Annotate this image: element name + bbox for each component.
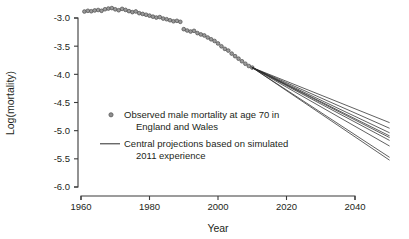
observed-data-point	[189, 30, 193, 34]
x-tick-label: 2020	[276, 201, 297, 212]
y-tick-label: -5.5	[54, 153, 70, 164]
observed-data-point	[237, 57, 241, 61]
y-axis: -3.0-3.5-4.0-4.5-5.0-5.5-6.0	[54, 12, 78, 192]
legend-label-line2: 2011 experience	[136, 150, 206, 161]
x-tick-label: 1960	[70, 201, 91, 212]
mortality-chart: -3.0-3.5-4.0-4.5-5.0-5.5-6.0 19601980200…	[0, 0, 409, 239]
observed-data-point	[230, 52, 234, 56]
x-tick-label: 2000	[207, 201, 228, 212]
projection-line	[252, 68, 389, 141]
observed-data-point	[233, 54, 237, 58]
projection-line	[252, 68, 389, 146]
observed-data-point	[226, 49, 230, 53]
observed-data-point	[161, 17, 165, 21]
y-tick-label: -5.0	[54, 125, 70, 136]
y-tick-label: -6.0	[54, 181, 70, 192]
legend-label-line1: Central projections based on simulated	[124, 138, 288, 149]
projection-line	[252, 68, 389, 133]
observed-data-point	[103, 7, 107, 11]
observed-data-point	[83, 10, 87, 14]
observed-data-point	[216, 42, 220, 46]
legend-label-line1: Observed male mortality at age 70 in	[124, 109, 279, 120]
observed-data-point	[178, 20, 182, 24]
legend-marker-icon	[109, 113, 113, 117]
chart-series	[83, 6, 390, 160]
chart-legend: Observed male mortality at age 70 inEngl…	[100, 109, 288, 161]
legend-label-line2: England and Wales	[136, 121, 218, 132]
observed-series	[83, 6, 255, 69]
y-tick-label: -3.0	[54, 12, 70, 23]
observed-data-point	[202, 34, 206, 38]
observed-data-point	[244, 62, 248, 66]
observed-data-point	[213, 39, 217, 43]
observed-data-point	[192, 29, 196, 33]
chart-figure: -3.0-3.5-4.0-4.5-5.0-5.5-6.0 19601980200…	[0, 0, 409, 239]
y-axis-title: Log(mortality)	[4, 71, 16, 135]
observed-data-point	[220, 44, 224, 48]
y-tick-label: -4.0	[54, 69, 70, 80]
y-tick-label: -3.5	[54, 41, 70, 52]
observed-data-point	[131, 10, 135, 14]
x-tick-label: 2040	[344, 201, 365, 212]
x-tick-label: 1980	[139, 201, 160, 212]
x-axis-title: Year	[207, 222, 229, 234]
x-axis: 19601980200020202040	[70, 196, 365, 212]
observed-data-point	[240, 59, 244, 63]
y-tick-label: -4.5	[54, 97, 70, 108]
